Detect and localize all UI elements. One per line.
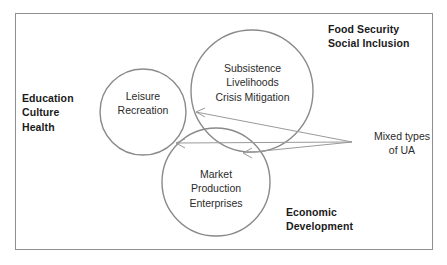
- label-market-production-enterprises: Market Production Enterprises: [172, 167, 260, 210]
- label-leisure-recreation: Leisure Recreation: [104, 89, 182, 118]
- arrow-to-leisure-subsistence-overlap: [196, 108, 352, 142]
- arrow-to-triple-overlap: [176, 139, 352, 148]
- diagram-canvas: Education Culture Health Food Security S…: [0, 0, 447, 265]
- label-food-security-social-inclusion: Food Security Social Inclusion: [328, 22, 410, 51]
- label-economic-development: Economic Development: [286, 205, 353, 234]
- label-education-culture-health: Education Culture Health: [22, 91, 74, 134]
- label-mixed-types-of-ua: Mixed types of UA: [364, 129, 440, 158]
- label-subsistence-livelihoods-crisis-mitigation: Subsistence Livelihoods Crisis Mitigatio…: [200, 61, 305, 104]
